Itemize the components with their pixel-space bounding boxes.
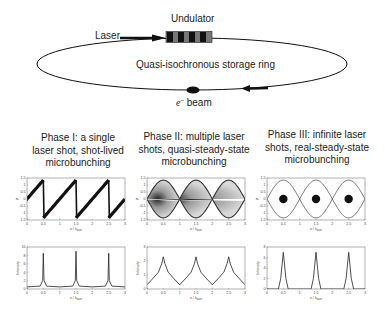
svg-text:1.5: 1.5: [74, 291, 79, 295]
phase-2-line3: microbunching: [134, 156, 254, 169]
svg-text:8: 8: [264, 245, 266, 249]
svg-text:2.5: 2.5: [106, 222, 111, 226]
svg-text:3: 3: [124, 291, 126, 295]
svg-text:0.5: 0.5: [41, 222, 46, 226]
svg-text:1.5: 1.5: [141, 176, 146, 180]
svg-text:0: 0: [264, 287, 266, 291]
svg-text:1: 1: [24, 183, 26, 187]
plot-content: 00.511.522.531.510.50-0.5-1-1.5z / λlase…: [135, 176, 246, 232]
svg-text:8: 8: [24, 254, 26, 258]
phase-3-line2: shots, real-steady-state: [257, 142, 377, 155]
svg-text:0.5: 0.5: [161, 291, 166, 295]
svg-text:-0.5: -0.5: [139, 204, 145, 208]
svg-text:6: 6: [264, 256, 266, 260]
phase-2-phase-space-plot: 00.511.522.531.510.50-0.5-1-1.5z / λlase…: [135, 175, 250, 235]
y-axis-label: Intensity: [16, 261, 20, 275]
svg-text:1: 1: [179, 222, 181, 226]
phase-3-phase-space-plot: 00.511.522.531.510.50-0.5-1-1.5z / λlase…: [255, 175, 370, 235]
svg-text:0: 0: [266, 222, 268, 226]
x-axis-label: z / λlaser: [70, 227, 82, 232]
svg-text:1: 1: [144, 183, 146, 187]
svg-text:1: 1: [59, 222, 61, 226]
y-axis-label: Intensity: [256, 261, 260, 275]
x-axis-label: z / λlaser: [70, 296, 82, 301]
svg-text:1.5: 1.5: [314, 291, 319, 295]
phase-1-title: Phase I: a single laser shot, shot-lived…: [18, 132, 138, 170]
svg-text:0: 0: [146, 291, 148, 295]
svg-text:1: 1: [59, 291, 61, 295]
svg-text:4: 4: [264, 266, 266, 270]
svg-text:0.5: 0.5: [261, 190, 266, 194]
svg-text:-1: -1: [142, 211, 145, 215]
beam-label: e− beam: [176, 97, 212, 108]
svg-text:3: 3: [244, 222, 246, 226]
svg-text:1: 1: [144, 273, 146, 277]
svg-text:-1: -1: [22, 211, 25, 215]
undulator-label: Undulator: [171, 13, 214, 24]
svg-text:0: 0: [266, 291, 268, 295]
svg-text:-1.5: -1.5: [19, 218, 25, 222]
svg-text:2: 2: [331, 222, 333, 226]
svg-text:1.5: 1.5: [74, 222, 79, 226]
svg-text:1.5: 1.5: [314, 222, 319, 226]
y-axis-label: P: [136, 197, 140, 200]
ring-label: Quasi-isochronous storage ring: [136, 59, 275, 70]
svg-text:0: 0: [144, 287, 146, 291]
phase-1-line1: Phase I: a single: [18, 132, 138, 145]
svg-text:2.5: 2.5: [106, 291, 111, 295]
svg-text:3: 3: [144, 245, 146, 249]
bunch-dot: [344, 195, 352, 203]
phase-1-phase-space-plot: 00.511.522.531.510.50-0.5-1-1.5z / λlase…: [15, 175, 130, 235]
svg-text:2: 2: [331, 291, 333, 295]
svg-text:-0.5: -0.5: [19, 204, 25, 208]
svg-text:10: 10: [22, 245, 26, 249]
svg-text:0: 0: [146, 222, 148, 226]
phase-3-title: Phase III: infinite laser shots, real-st…: [257, 129, 377, 167]
svg-text:0: 0: [26, 291, 28, 295]
phase-3-intensity-plot: 00.511.522.5302468z / λlaserIntensity: [255, 244, 370, 304]
plot-frame: [147, 247, 245, 289]
svg-text:3: 3: [124, 222, 126, 226]
y-axis-label: Intensity: [136, 261, 140, 275]
svg-text:0: 0: [26, 222, 28, 226]
electron-bunch: [187, 86, 200, 93]
phase-1-line2: laser shot, shot-lived: [18, 145, 138, 158]
svg-text:0: 0: [144, 197, 146, 201]
svg-text:0.5: 0.5: [281, 222, 286, 226]
y-axis-label: P: [16, 197, 20, 200]
svg-text:3: 3: [364, 291, 366, 295]
svg-text:1: 1: [179, 291, 181, 295]
svg-text:1: 1: [264, 183, 266, 187]
svg-text:2: 2: [24, 279, 26, 283]
y-axis-label: P: [256, 197, 260, 200]
svg-text:4: 4: [24, 271, 26, 275]
svg-text:2.5: 2.5: [226, 222, 231, 226]
svg-text:2: 2: [211, 222, 213, 226]
svg-text:0.5: 0.5: [161, 222, 166, 226]
phase-1-line3: microbunching: [18, 157, 138, 170]
phase-1-intensity-plot: 00.511.522.530246810z / λlaserIntensity: [15, 244, 130, 304]
bunch-dot: [312, 195, 320, 203]
svg-text:-1.5: -1.5: [259, 218, 265, 222]
svg-text:1.5: 1.5: [194, 291, 199, 295]
x-axis-label: z / λlaser: [190, 296, 202, 301]
svg-text:1: 1: [299, 291, 301, 295]
phase-3-line3: microbunching: [257, 154, 377, 167]
svg-text:0: 0: [24, 287, 26, 291]
svg-text:2.5: 2.5: [226, 291, 231, 295]
x-axis-label: z / λlaser: [190, 227, 202, 232]
plot-content: 00.511.522.530246810z / λlaserIntensity: [16, 245, 126, 301]
svg-text:0.5: 0.5: [41, 291, 46, 295]
svg-text:2: 2: [91, 291, 93, 295]
plot-content: 00.511.522.5302468z / λlaserIntensity: [256, 245, 366, 301]
svg-text:3: 3: [364, 222, 366, 226]
svg-text:1.5: 1.5: [194, 222, 199, 226]
svg-text:3: 3: [244, 291, 246, 295]
laser-label: Laser: [95, 30, 120, 41]
svg-text:-1: -1: [262, 211, 265, 215]
svg-text:0.5: 0.5: [141, 190, 146, 194]
plot-content: 00.511.522.530123z / λlaserIntensity: [136, 245, 246, 301]
beam-label-rest: beam: [184, 97, 212, 108]
svg-text:2: 2: [91, 222, 93, 226]
svg-text:1.5: 1.5: [261, 176, 266, 180]
